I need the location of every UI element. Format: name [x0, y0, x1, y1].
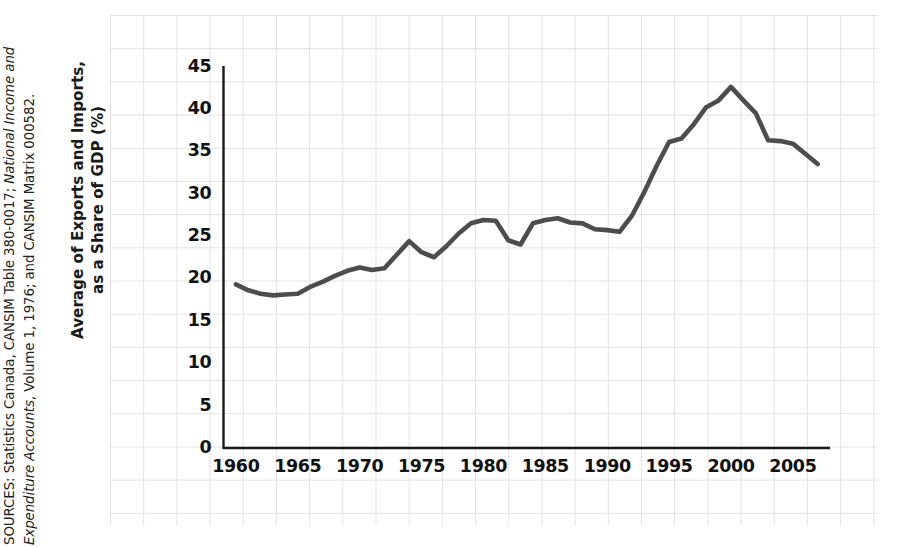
y-tick-label-45: 45	[172, 56, 212, 76]
x-tick-label-1975: 1975	[387, 456, 457, 476]
x-tick-label-1995: 1995	[634, 456, 704, 476]
x-tick-label-1980: 1980	[448, 456, 518, 476]
y-axis-title-line1: Average of Exports and Imports,	[68, 50, 88, 350]
x-tick-label-2005: 2005	[758, 456, 828, 476]
x-tick-label-1985: 1985	[510, 456, 580, 476]
x-tick-label-1970: 1970	[325, 456, 395, 476]
y-tick-label-30: 30	[172, 183, 212, 203]
x-tick-label-2000: 2000	[696, 456, 766, 476]
y-axis-title-line2: as a Share of GDP (%)	[88, 50, 108, 350]
y-tick-label-25: 25	[172, 225, 212, 245]
chart-plot-area: Average of Exports and Imports, as a Sha…	[0, 0, 898, 547]
x-tick-label-1960: 1960	[201, 456, 271, 476]
x-tick-label-1965: 1965	[263, 456, 333, 476]
y-tick-label-20: 20	[172, 267, 212, 287]
y-tick-label-5: 5	[172, 395, 212, 415]
data-series-line	[236, 87, 818, 296]
y-tick-label-10: 10	[172, 352, 212, 372]
y-tick-label-0: 0	[172, 437, 212, 457]
y-tick-label-15: 15	[172, 310, 212, 330]
y-tick-label-40: 40	[172, 98, 212, 118]
y-tick-label-35: 35	[172, 140, 212, 160]
y-axis-title: Average of Exports and Imports, as a Sha…	[68, 50, 108, 350]
x-tick-label-1990: 1990	[572, 456, 642, 476]
